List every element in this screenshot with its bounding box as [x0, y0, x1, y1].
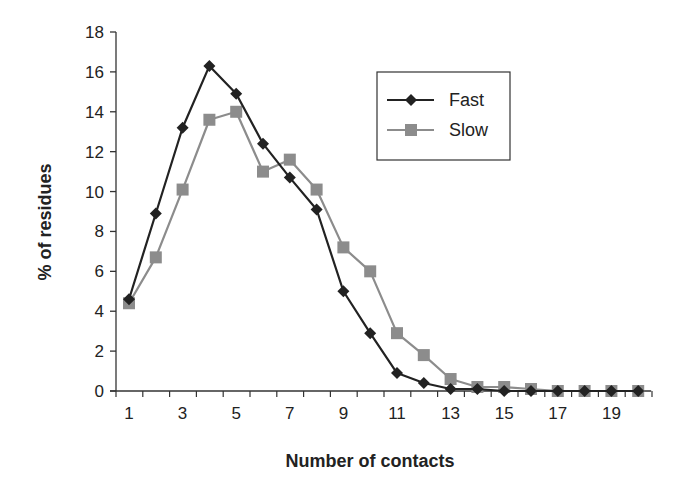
y-axis: 024681012141618 [85, 23, 116, 401]
y-axis-title: % of residues [35, 163, 55, 280]
x-tick-label: 5 [231, 404, 240, 423]
data-point [337, 241, 349, 253]
y-tick-label: 14 [85, 103, 104, 122]
data-point [311, 184, 323, 196]
data-point [230, 106, 242, 118]
x-tick-label: 9 [339, 404, 348, 423]
y-tick-label: 0 [95, 382, 104, 401]
legend: Fast Slow [377, 72, 510, 160]
y-tick-label: 18 [85, 23, 104, 42]
x-tick-label: 7 [285, 404, 294, 423]
data-point [391, 327, 403, 339]
y-tick-label: 10 [85, 183, 104, 202]
data-point [257, 166, 269, 178]
data-point [418, 349, 430, 361]
x-tick-label: 19 [602, 404, 621, 423]
y-tick-label: 8 [95, 222, 104, 241]
data-point [337, 285, 349, 297]
x-tick-label: 17 [548, 404, 567, 423]
legend-box [377, 72, 510, 160]
y-tick-label: 6 [95, 262, 104, 281]
y-tick-label: 16 [85, 63, 104, 82]
data-point [177, 122, 189, 134]
data-point [284, 154, 296, 166]
data-point [364, 265, 376, 277]
x-tick-label: 1 [124, 404, 133, 423]
x-tick-label: 11 [388, 404, 406, 423]
x-tick-label: 13 [441, 404, 460, 423]
x-axis: 135791113151719 [110, 391, 652, 423]
data-point [150, 251, 162, 263]
y-tick-label: 4 [95, 302, 104, 321]
x-tick-label: 3 [178, 404, 187, 423]
data-point [177, 184, 189, 196]
square-marker-icon [405, 124, 417, 136]
data-point [203, 114, 215, 126]
legend-label-fast: Fast [449, 90, 484, 110]
x-tick-label: 15 [495, 404, 514, 423]
data-point [418, 377, 430, 389]
line-chart: 024681012141618 135791113151719 Fast Slo… [0, 0, 687, 490]
y-tick-label: 12 [85, 143, 104, 162]
data-point [150, 207, 162, 219]
x-axis-title: Number of contacts [285, 451, 454, 471]
legend-label-slow: Slow [449, 120, 489, 140]
data-point [364, 327, 376, 339]
y-tick-label: 2 [95, 342, 104, 361]
data-point [391, 367, 403, 379]
